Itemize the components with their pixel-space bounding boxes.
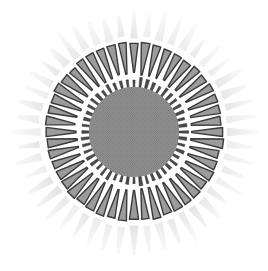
tick-mark — [133, 80, 135, 87]
center-disc-base — [89, 87, 179, 177]
figure-root: Radial sunburst diagram Concentric radia… — [0, 0, 268, 271]
tick-mark — [133, 176, 135, 183]
tick-mark — [82, 131, 90, 134]
tick-mark — [179, 131, 189, 134]
sunburst-diagram: Radial sunburst diagram Concentric radia… — [0, 0, 268, 271]
center-disc — [89, 87, 179, 177]
